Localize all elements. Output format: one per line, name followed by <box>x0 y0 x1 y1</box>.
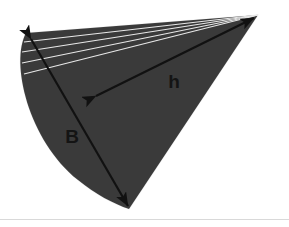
base-arc-label: B <box>65 126 79 147</box>
figure-root: h B <box>0 0 289 227</box>
cone-sector-figure: h B <box>0 0 289 227</box>
footer-divider <box>0 219 289 220</box>
slant-height-label: h <box>168 71 180 92</box>
